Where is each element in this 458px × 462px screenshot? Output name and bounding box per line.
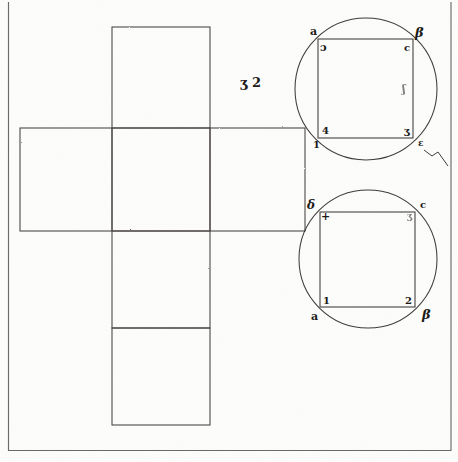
label-upper-four: 4 bbox=[322, 126, 329, 136]
label-lower-a: a bbox=[311, 311, 318, 322]
center-annotation: ʒ 2 bbox=[240, 76, 261, 89]
label-upper-mark: ɛ bbox=[418, 139, 423, 148]
label-lower-two: 2 bbox=[405, 296, 412, 306]
label-upper-c: c bbox=[404, 43, 410, 53]
label-lower-delta: δ bbox=[307, 199, 315, 211]
label-lower-one: 1 bbox=[323, 296, 330, 306]
label-upper-d: ɔ bbox=[320, 42, 327, 53]
label-lower-plus: + bbox=[321, 211, 330, 222]
manuscript-plate: ʒ 2 aɔβc41ʒɛʃδ+cʒ1a2β bbox=[0, 0, 458, 462]
label-lower-three: ʒ bbox=[407, 212, 412, 221]
label-upper-faint-edge: ʃ bbox=[402, 84, 406, 95]
label-upper-beta: β bbox=[415, 26, 424, 39]
label-upper-one: 1 bbox=[313, 140, 320, 150]
label-upper-three: ʒ bbox=[404, 126, 410, 136]
label-upper-a: a bbox=[310, 26, 317, 37]
diagram-canvas bbox=[0, 0, 458, 462]
label-lower-beta: β bbox=[422, 308, 431, 321]
label-lower-c: c bbox=[420, 200, 426, 210]
